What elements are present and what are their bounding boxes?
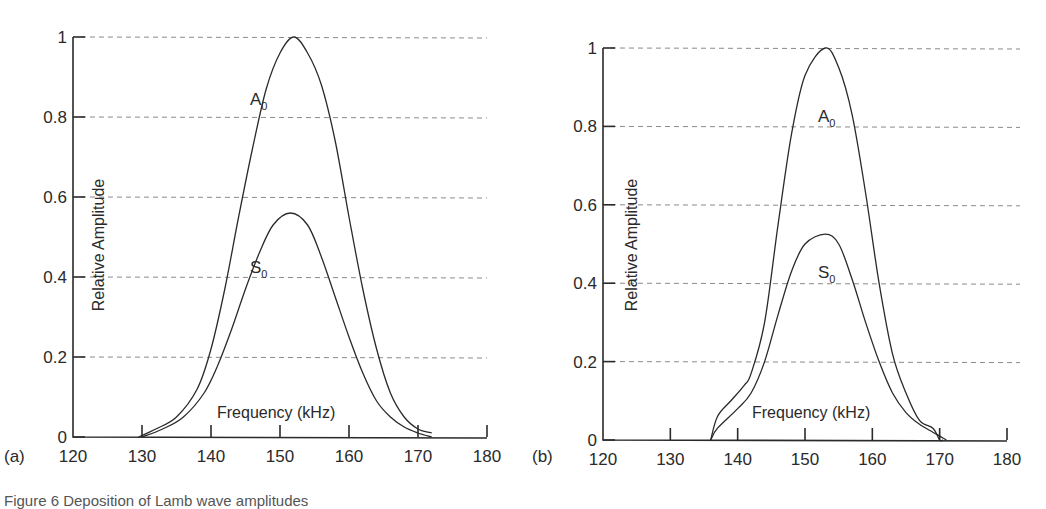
chart-panel-a: 00.20.40.60.81120130140150160170180Relat…: [4, 28, 501, 466]
y-tick-label: 1: [58, 28, 67, 47]
figure-caption: Figure 6 Deposition of Lamb wave amplitu…: [4, 492, 308, 509]
series-s0-label: S0: [250, 258, 267, 280]
gridline: [81, 197, 487, 198]
x-tick-label: 150: [266, 447, 294, 466]
x-tick-label: 180: [473, 447, 501, 466]
y-tick-label: 0: [588, 431, 597, 450]
series-a0-curve: [139, 37, 432, 437]
x-tick-label: 130: [128, 447, 156, 466]
gridline: [611, 362, 1020, 363]
x-tick-label: 160: [858, 450, 886, 469]
gridline: [81, 357, 487, 358]
axes: [73, 37, 487, 438]
y-tick-label: 0.6: [43, 188, 67, 207]
x-tick-label: 140: [197, 447, 225, 466]
x-tick-label: 150: [791, 450, 819, 469]
x-axis-title: Frequency (kHz): [217, 404, 335, 421]
x-tick-label: 120: [589, 450, 617, 469]
y-tick-label: 0.6: [573, 196, 597, 215]
series-a0-label: A0: [818, 107, 835, 129]
y-tick-label: 0.2: [43, 348, 67, 367]
series-s0-label: S0: [818, 263, 835, 285]
y-tick-label: 0.8: [573, 117, 597, 136]
y-axis-title: Relative Amplitude: [90, 179, 107, 312]
x-axis-title: Frequency (kHz): [752, 404, 870, 421]
gridline: [611, 126, 1020, 127]
y-tick-label: 0: [58, 428, 67, 447]
panel-label: (b): [532, 447, 553, 466]
chart-panel-b: 00.20.40.60.81120130140150160170180Relat…: [532, 39, 1021, 469]
y-tick-label: 0.4: [573, 274, 597, 293]
y-axis-title: Relative Amplitude: [623, 179, 640, 312]
x-tick-label: 160: [335, 447, 363, 466]
y-tick-label: 0.4: [43, 268, 67, 287]
x-tick-label: 170: [925, 450, 953, 469]
y-tick-label: 1: [588, 39, 597, 58]
y-tick-label: 0.2: [573, 353, 597, 372]
gridline: [611, 48, 1020, 49]
gridline: [611, 205, 1020, 206]
gridline: [81, 37, 487, 38]
x-tick-label: 120: [59, 447, 87, 466]
gridline: [611, 283, 1020, 284]
y-tick-label: 0.8: [43, 108, 67, 127]
gridline: [81, 277, 487, 278]
x-tick-label: 180: [993, 450, 1021, 469]
panel-label: (a): [4, 447, 25, 466]
x-tick-label: 140: [723, 450, 751, 469]
gridline: [81, 117, 487, 118]
x-tick-label: 130: [656, 450, 684, 469]
x-tick-label: 170: [404, 447, 432, 466]
